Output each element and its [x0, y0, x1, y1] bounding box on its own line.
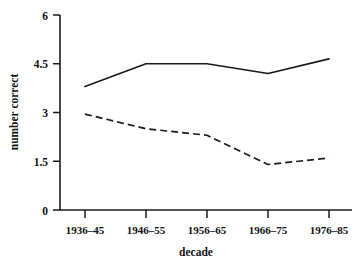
- x-tick-label-1956-65: 1956–65: [188, 224, 227, 236]
- line-chart: 6 4.5 3 1.5 0 1936–45 1946–55 1956–65 19…: [0, 0, 359, 271]
- y-tick-label-4-5: 4.5: [34, 58, 49, 70]
- x-tick-label-1946-55: 1946–55: [127, 224, 166, 236]
- x-tick-label-1966-75: 1966–75: [249, 224, 288, 236]
- y-tick-label-3: 3: [42, 107, 48, 119]
- series-solid-line: [85, 59, 329, 87]
- x-tick-label-1976-85: 1976–85: [310, 224, 349, 236]
- y-axis-title: number correct: [8, 74, 20, 151]
- y-tick-label-6: 6: [42, 10, 48, 22]
- chart-canvas: 6 4.5 3 1.5 0 1936–45 1946–55 1956–65 19…: [0, 0, 359, 271]
- y-tick-label-1-5: 1.5: [34, 156, 49, 168]
- x-axis-ticks: [85, 210, 329, 218]
- x-tick-label-1936-45: 1936–45: [66, 224, 105, 236]
- x-axis-title: decade: [179, 246, 213, 258]
- y-tick-label-0: 0: [42, 205, 48, 217]
- series-dashed-line: [85, 114, 329, 164]
- y-axis-ticks: [53, 15, 60, 210]
